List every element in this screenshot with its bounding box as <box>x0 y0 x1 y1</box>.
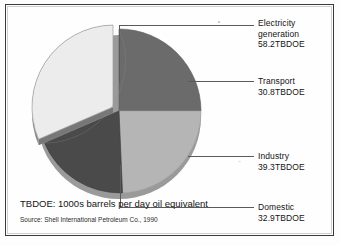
unit-footnote: TBDOE: 1000s barrels per day oil equival… <box>20 198 208 209</box>
callout-transport-name: Transport <box>258 76 305 87</box>
callout-electricity-name-line1: Electricity <box>258 18 305 29</box>
source-note: Source: Shell International Petroleum Co… <box>20 216 158 223</box>
leader-line-electricity-vertical <box>119 25 120 83</box>
pie-slice-industry[interactable] <box>119 111 201 193</box>
scan-speckle <box>238 161 241 162</box>
figure-frame: Electricity generation 58.2TBDOE Transpo… <box>5 4 334 236</box>
callout-industry: Industry 39.3TBDOE <box>258 151 305 172</box>
leader-line-electricity-horizontal <box>119 25 254 26</box>
pie-chart-figure: Electricity generation 58.2TBDOE Transpo… <box>0 0 340 245</box>
callout-industry-value: 39.3TBDOE <box>258 162 305 173</box>
pie-slice-transport[interactable] <box>119 29 201 111</box>
callout-domestic: Domestic 32.9TBDOE <box>258 202 305 223</box>
callout-electricity-generation: Electricity generation 58.2TBDOE <box>258 18 305 50</box>
callout-domestic-name: Domestic <box>258 202 305 213</box>
callout-transport: Transport 30.8TBDOE <box>258 76 305 97</box>
leader-line-industry <box>188 156 254 157</box>
scan-speckle <box>218 21 220 23</box>
callout-electricity-value: 58.2TBDOE <box>258 39 305 50</box>
leader-line-transport <box>188 81 254 82</box>
callout-transport-value: 30.8TBDOE <box>258 87 305 98</box>
callout-electricity-name-line2: generation <box>258 29 305 40</box>
callout-industry-name: Industry <box>258 151 305 162</box>
callout-domestic-value: 32.9TBDOE <box>258 213 305 224</box>
